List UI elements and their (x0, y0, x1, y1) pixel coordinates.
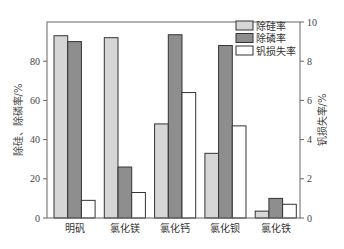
bar (54, 36, 68, 218)
bar (219, 46, 233, 218)
bar (205, 153, 219, 218)
right-tick-label: 4 (307, 134, 312, 145)
bar (81, 200, 95, 218)
right-axis-title: 钒损失率/% (316, 94, 328, 147)
right-tick-label: 6 (307, 95, 312, 106)
category-label: 明矾 (65, 223, 85, 234)
left-tick-label: 20 (30, 173, 40, 184)
legend: 除硅率除磷率钒损失率 (236, 20, 296, 57)
right-tick-label: 10 (307, 17, 317, 28)
bar (118, 167, 132, 218)
left-tick-label: 80 (30, 56, 40, 67)
left-tick-label: 40 (30, 134, 40, 145)
left-axis: 020406080 (30, 56, 47, 224)
x-axis-categories: 明矾氯化镁氯化钙氯化钡氯化铁 (65, 222, 291, 234)
left-tick-label: 60 (30, 95, 40, 106)
bar (132, 193, 146, 218)
bar (232, 126, 246, 218)
category-label: 氯化镁 (110, 222, 140, 234)
left-axis-title: 除硅、除磷率/% (12, 84, 24, 157)
bar (269, 198, 283, 218)
legend-label: 除硅率 (256, 20, 286, 32)
right-tick-label: 0 (307, 213, 312, 224)
legend-swatch (236, 34, 253, 43)
category-label: 氯化钙 (160, 222, 190, 234)
bar (168, 35, 182, 218)
bar (155, 124, 169, 218)
legend-label: 钒损失率 (256, 45, 296, 57)
bar (104, 38, 118, 218)
bars-layer (54, 35, 296, 218)
legend-swatch (236, 21, 253, 30)
bar (255, 211, 269, 218)
chart: 020406080 0246810 明矾氯化镁氯化钙氯化钡氯化铁 除硅、除磷率/… (0, 0, 344, 249)
left-tick-label: 0 (35, 213, 40, 224)
legend-label: 除磷率 (256, 32, 286, 44)
bar (182, 93, 196, 218)
legend-swatch (236, 46, 253, 55)
bar (283, 204, 297, 218)
category-label: 氯化铁 (261, 222, 291, 234)
category-label: 氯化钡 (210, 222, 240, 234)
right-axis: 0246810 (300, 17, 317, 224)
right-tick-label: 2 (307, 173, 312, 184)
right-tick-label: 8 (307, 56, 312, 67)
bar (68, 42, 82, 218)
